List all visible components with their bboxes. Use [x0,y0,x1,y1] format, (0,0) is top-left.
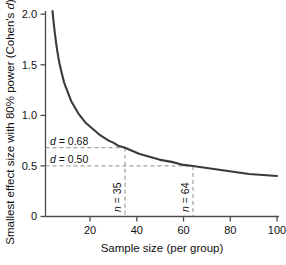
y-tick-label-2-0: 2.0 [22,8,37,20]
y-tick-label-1-5: 1.5 [22,59,37,71]
label-n-64: n = 64 [179,182,191,212]
chart-figure: 0 0.5 1.0 1.5 2.0 20 40 60 80 100 Sample… [0,0,286,265]
label-n-35: n = 35 [111,182,123,212]
x-tick-label-60: 60 [177,224,189,236]
power-curve-chart: 0 0.5 1.0 1.5 2.0 20 40 60 80 100 Sample… [0,0,286,265]
label-n-64-value: = 64 [179,182,191,206]
label-d-0-68: d = 0.68 [50,135,88,147]
label-d-0-50-value: = 0.50 [56,153,89,165]
y-axis-title-tail: ) [4,0,16,3]
y-tick-label-0: 0 [31,210,37,222]
y-axis-title: Smallest effect size with 80% power (Coh… [4,0,16,245]
y-tick-label-1-0: 1.0 [22,109,37,121]
x-tick-label-20: 20 [84,224,96,236]
label-n-35-value: = 35 [111,182,123,206]
chart-background [0,0,286,265]
x-tick-label-80: 80 [224,224,236,236]
svg-text:Smallest effect size with 80%: Smallest effect size with 80% power (Coh… [4,0,16,245]
y-axis-title-text: Smallest effect size with 80% power (Coh… [4,9,16,244]
y-tick-label-0-5: 0.5 [22,160,37,172]
label-d-0-50: d = 0.50 [50,153,88,165]
x-tick-label-40: 40 [131,224,143,236]
x-axis-title: Sample size (per group) [101,242,224,254]
x-tick-label-100: 100 [268,224,286,236]
label-d-0-68-value: = 0.68 [56,135,89,147]
